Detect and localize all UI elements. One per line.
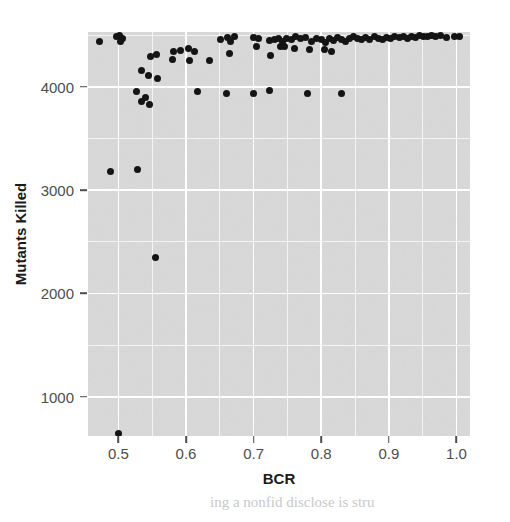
panel-texture: [88, 32, 470, 436]
data-point: [206, 57, 213, 64]
data-point: [154, 75, 161, 82]
grid-minor-vertical: [422, 32, 423, 436]
x-tick-label: 0.5: [108, 446, 129, 461]
data-point: [304, 90, 311, 97]
data-point: [177, 47, 184, 54]
data-point: [191, 48, 198, 55]
x-tick-mark: [320, 436, 322, 443]
data-point: [146, 101, 153, 108]
data-point: [306, 46, 313, 53]
grid-minor-vertical: [287, 32, 288, 436]
data-point: [443, 34, 450, 41]
data-point: [338, 90, 345, 97]
grid-major-horizontal: [88, 189, 470, 191]
grid-minor-horizontal: [88, 345, 470, 346]
data-point: [138, 67, 145, 74]
data-point: [291, 45, 298, 52]
data-point: [456, 33, 463, 40]
x-tick-label: 0.8: [311, 446, 332, 461]
data-point: [223, 90, 230, 97]
y-tick-mark: [80, 293, 87, 295]
grid-major-horizontal: [88, 293, 470, 295]
grid-major-vertical: [456, 32, 458, 436]
grid-minor-vertical: [152, 32, 153, 436]
scatter-plot-figure: ing a nonfid disclose is stru 1000200030…: [0, 0, 510, 522]
data-point: [255, 35, 262, 42]
grid-major-vertical: [185, 32, 187, 436]
y-tick-mark: [80, 189, 87, 191]
data-point: [217, 36, 224, 43]
x-tick-mark: [456, 436, 458, 443]
data-point: [138, 98, 145, 105]
x-tick-mark: [118, 436, 120, 443]
grid-major-vertical: [388, 32, 390, 436]
data-point: [267, 52, 274, 59]
data-point: [250, 90, 257, 97]
data-point: [107, 168, 114, 175]
data-point: [117, 38, 124, 45]
data-point: [328, 48, 335, 55]
grid-minor-horizontal: [88, 138, 470, 139]
data-point: [134, 166, 141, 173]
data-point: [226, 50, 233, 57]
data-point: [253, 43, 260, 50]
scan-artifact-text: ing a nonfid disclose is stru: [210, 494, 375, 511]
data-point: [266, 87, 273, 94]
plot-panel: [88, 32, 470, 436]
data-point: [186, 57, 193, 64]
x-tick-mark: [185, 436, 187, 443]
grid-minor-vertical: [355, 32, 356, 436]
grid-major-horizontal: [88, 86, 470, 88]
data-point: [96, 38, 103, 45]
data-point: [147, 53, 154, 60]
x-axis-tick-marks: [88, 436, 470, 444]
grid-minor-vertical: [219, 32, 220, 436]
data-point: [133, 88, 140, 95]
x-tick-label: 1.0: [446, 446, 467, 461]
x-tick-mark: [388, 436, 390, 443]
grid-major-vertical: [118, 32, 120, 436]
y-tick-mark: [80, 396, 87, 398]
x-tick-label: 0.6: [176, 446, 197, 461]
grid-major-horizontal: [88, 396, 470, 398]
x-axis-title: BCR: [88, 470, 470, 487]
x-tick-label: 0.7: [243, 446, 264, 461]
x-tick-mark: [253, 436, 255, 443]
data-point: [194, 88, 201, 95]
y-tick-mark: [80, 86, 87, 88]
data-point: [170, 48, 177, 55]
grid-major-vertical: [320, 32, 322, 436]
grid-minor-horizontal: [88, 241, 470, 242]
data-point: [231, 33, 238, 40]
data-point: [169, 56, 176, 63]
data-point: [152, 254, 159, 261]
x-axis-tick-labels: 0.50.60.70.80.91.0: [88, 446, 470, 466]
y-axis-title: Mutants Killed: [12, 32, 36, 436]
x-tick-label: 0.9: [378, 446, 399, 461]
